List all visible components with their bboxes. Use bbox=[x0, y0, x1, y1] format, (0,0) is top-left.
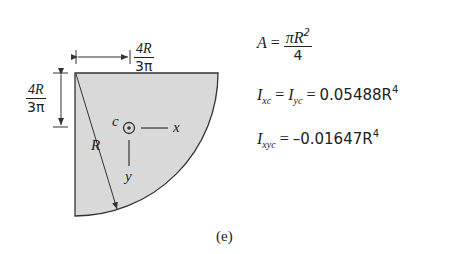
product-of-inertia-formula: Ixyc = –0.01647R4 bbox=[257, 128, 379, 150]
horizontal-dimension-label: 4R3π bbox=[134, 40, 154, 75]
figure-caption: (e) bbox=[216, 228, 233, 245]
x-axis-label: x bbox=[173, 119, 180, 136]
y-axis-label: y bbox=[125, 168, 132, 185]
radius-label: R bbox=[91, 137, 100, 154]
moment-of-inertia-formula: Ixc = Iyc = 0.05488R4 bbox=[257, 84, 398, 106]
quarter-circle-diagram bbox=[0, 0, 450, 254]
area-formula: A = πR24 bbox=[257, 24, 312, 64]
vertical-dimension-label: 4R3π bbox=[26, 81, 46, 116]
centroid-label: c bbox=[112, 113, 119, 130]
